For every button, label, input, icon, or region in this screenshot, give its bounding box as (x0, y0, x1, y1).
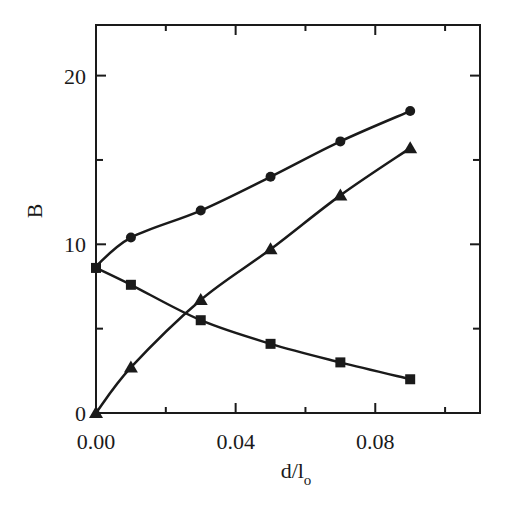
circle-marker (335, 136, 345, 146)
series-squares (91, 263, 415, 384)
series-line (96, 111, 410, 266)
series-line (96, 268, 410, 379)
data-series (89, 106, 417, 418)
x-axis-label-main: d/l (281, 458, 304, 483)
x-tick-label: 0.08 (356, 429, 395, 454)
x-tick-label: 0.04 (216, 429, 255, 454)
square-marker (266, 339, 276, 349)
series-triangles (89, 141, 417, 418)
x-axis-label: d/lo (281, 458, 312, 488)
y-axis-label: B (22, 204, 47, 219)
triangle-marker (333, 188, 347, 200)
square-marker (335, 357, 345, 367)
axis-ticks (96, 25, 480, 413)
circle-marker (196, 206, 206, 216)
circle-marker (126, 233, 136, 243)
triangle-marker (403, 141, 417, 153)
circle-marker (266, 172, 276, 182)
series-circles (91, 106, 415, 273)
tick-labels: 0.000.040.0801020 (64, 64, 395, 454)
x-tick-label: 0.00 (77, 429, 116, 454)
chart: 0.000.040.0801020 B d/lo (0, 0, 507, 508)
series-line (96, 148, 410, 413)
square-marker (196, 315, 206, 325)
square-marker (405, 374, 415, 384)
x-axis-label-subscript: o (304, 472, 312, 488)
y-tick-label: 20 (64, 64, 86, 89)
square-marker (126, 280, 136, 290)
plot-frame (96, 25, 480, 413)
circle-marker (405, 106, 415, 116)
y-tick-label: 0 (75, 401, 86, 426)
y-tick-label: 10 (64, 232, 86, 257)
